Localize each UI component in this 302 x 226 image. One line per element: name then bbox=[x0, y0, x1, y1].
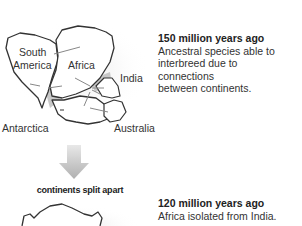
label-south: South bbox=[19, 47, 46, 58]
panel2-line: Africa isolated from India. bbox=[158, 210, 276, 222]
panel1-title: 150 million years ago bbox=[158, 32, 302, 45]
panel1-caption: 150 million years ago Ancestral species … bbox=[158, 32, 302, 95]
panel2-title: 120 million years ago bbox=[158, 197, 302, 210]
label-america: America bbox=[13, 60, 52, 71]
down-arrow-icon bbox=[58, 145, 90, 181]
label-africa: Africa bbox=[68, 60, 95, 71]
panel1-line: interbreed due to bbox=[158, 57, 237, 69]
australia-outline bbox=[104, 100, 126, 122]
split-label: continents split apart bbox=[0, 185, 160, 195]
panel2-caption: 120 million years ago Africa isolated fr… bbox=[158, 197, 302, 222]
label-india: India bbox=[120, 73, 143, 84]
panel1-line: between continents. bbox=[158, 82, 251, 94]
label-antarctica: Antarctica bbox=[2, 123, 49, 134]
label-australia: Australia bbox=[114, 123, 155, 134]
panel1-line: connections bbox=[158, 70, 214, 82]
panel1-line: Ancestral species able to bbox=[158, 45, 275, 57]
